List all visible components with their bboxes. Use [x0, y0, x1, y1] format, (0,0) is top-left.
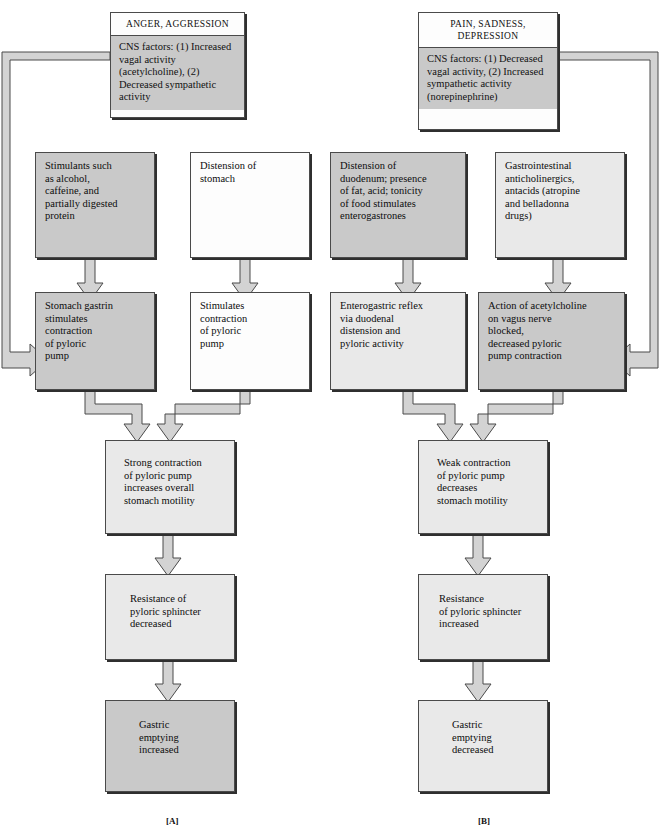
box-a-emptying-line-2: emptying [139, 732, 225, 745]
box-b-weak-line-1: Weak contraction [437, 457, 538, 470]
box-b-anticholinergics-line-4: and belladonna [505, 198, 615, 211]
box-a-stimulants: Stimulants such as alcohol, caffeine, an… [35, 152, 155, 258]
box-a-gastrin-line-1: Stomach gastrin [45, 300, 145, 313]
box-a-stimulants-line-3: caffeine, and [45, 185, 145, 198]
box-b-duodenum-line-1: Distension of [340, 160, 456, 173]
box-a-stimulants-line-5: protein [45, 210, 145, 223]
box-b-duodenum: Distension of duodenum; presence of fat,… [330, 152, 466, 258]
box-b-anticholinergics-line-2: anticholinergics, [505, 173, 615, 186]
panel-b-cns-lead: CNS factors: [427, 53, 482, 64]
box-a-strong-line-2: of pyloric pump [124, 470, 225, 483]
box-a-resistance-line-3: decreased [130, 618, 225, 631]
box-b-acetylcholine-line-2: on vagus nerve [488, 313, 615, 326]
box-b-emptying-line-2: emptying [452, 732, 538, 745]
box-b-acetylcholine-line-5: pump contraction [488, 350, 615, 363]
box-b-acetylcholine-line-1: Action of acetylcholine [488, 300, 615, 313]
box-b-gastric-emptying: Gastric emptying decreased [418, 700, 548, 792]
box-a-stimulates-line-2: contraction [200, 313, 300, 326]
box-b-duodenum-line-3: of fat, acid; tonicity [340, 185, 456, 198]
box-a-strong-line-4: stomach motility [124, 495, 225, 508]
box-b-duodenum-line-5: enterogastrones [340, 210, 456, 223]
arrow-a-resistance-to-emptying [155, 660, 181, 702]
box-b-duodenum-line-4: of food stimulates [340, 198, 456, 211]
arrow-a-strong-to-resistance [155, 534, 181, 576]
box-a-stimulates: Stimulates contraction of pyloric pump [190, 292, 310, 390]
arrow-b-resistance-to-emptying [465, 660, 491, 702]
box-a-emptying-line-3: increased [139, 744, 225, 757]
figure-canvas: .wire{fill:#d3d3d3;stroke:#4a4a4a;stroke… [0, 0, 660, 834]
box-a-gastrin-line-2: stimulates [45, 313, 145, 326]
box-b-anticholinergics-line-1: Gastrointestinal [505, 160, 615, 173]
box-a-gastric-emptying: Gastric emptying increased [105, 700, 235, 792]
box-b-anticholinergics-line-5: drugs) [505, 210, 615, 223]
arrow-a-stimulates-to-strong [157, 390, 250, 442]
box-b-duodenum-line-2: duodenum; presence [340, 173, 456, 186]
panel-b-title: PAIN, SADNESS, DEPRESSION [419, 13, 557, 48]
box-b-reflex-line-3: distension and [340, 325, 456, 338]
box-b-weak-contraction: Weak contraction of pyloric pump decreas… [418, 440, 548, 534]
panel-b-cns-factors: CNS factors: (1) Decreased vagal activit… [419, 48, 557, 109]
box-b-emptying-line-1: Gastric [452, 719, 538, 732]
box-b-weak-line-3: decreases [437, 482, 538, 495]
box-a-resistance-line-1: Resistance of [130, 593, 225, 606]
box-b-weak-line-2: of pyloric pump [437, 470, 538, 483]
box-a-distension: Distension of stomach [190, 152, 310, 258]
box-a-stimulants-line-1: Stimulants such [45, 160, 145, 173]
box-b-resistance-line-3: increased [439, 618, 538, 631]
box-b-weak-line-4: stomach motility [437, 495, 538, 508]
box-a-stimulates-line-1: Stimulates [200, 300, 300, 313]
connector-layer: .wire{fill:#d3d3d3;stroke:#4a4a4a;stroke… [0, 0, 660, 834]
box-a-distension-line-1: Distension of [200, 160, 300, 173]
box-b-acetylcholine-line-4: decreased pyloric [488, 338, 615, 351]
box-a-stimulates-line-4: pump [200, 338, 300, 351]
box-b-acetylcholine-line-3: blocked, [488, 325, 615, 338]
panel-a-cns-factors: CNS factors: (1) Increased vagal activit… [111, 36, 244, 110]
box-a-emptying-line-1: Gastric [139, 719, 225, 732]
box-a-stimulants-line-4: partially digested [45, 198, 145, 211]
box-b-reflex-line-2: via duodenal [340, 313, 456, 326]
box-b-emptying-line-3: decreased [452, 744, 538, 757]
panel-a-cns-line-4: activity [119, 91, 151, 102]
arrow-b-reflex-to-weak [403, 390, 463, 442]
panel-b-caption: [B] [478, 816, 490, 826]
box-a-gastrin-line-3: contraction [45, 325, 145, 338]
box-b-anticholinergics: Gastrointestinal anticholinergics, antac… [495, 152, 625, 258]
arrow-a-gastrin-to-strong [85, 390, 150, 442]
box-a-strong-line-1: Strong contraction [124, 457, 225, 470]
box-a-strong-contraction: Strong contraction of pyloric pump incre… [105, 440, 235, 534]
box-b-resistance-line-2: of pyloric sphincter [439, 606, 538, 619]
arrow-b-acetylcholine-to-weak [470, 390, 563, 442]
box-a-gastrin-line-4: of pyloric [45, 338, 145, 351]
panel-a-cns-lead: CNS factors: [119, 41, 174, 52]
box-a-stimulates-line-3: of pyloric [200, 325, 300, 338]
box-a-stimulants-line-2: as alcohol, [45, 173, 145, 186]
box-a-resistance: Resistance of pyloric sphincter decrease… [105, 574, 235, 660]
box-a-gastrin-line-5: pump [45, 350, 145, 363]
panel-a-header-box: ANGER, AGGRESSION CNS factors: (1) Incre… [110, 12, 245, 118]
panel-b-header-box: PAIN, SADNESS, DEPRESSION CNS factors: (… [418, 12, 558, 130]
panel-b-title-line-2: DEPRESSION [457, 31, 518, 41]
box-b-reflex-line-1: Enterogastric reflex [340, 300, 456, 313]
box-a-gastrin: Stomach gastrin stimulates contraction o… [35, 292, 155, 390]
box-a-strong-line-3: increases overall [124, 482, 225, 495]
box-b-reflex-line-4: pyloric activity [340, 338, 456, 351]
box-b-anticholinergics-line-3: antacids (atropine [505, 185, 615, 198]
panel-b-cns-line-2: activity, [452, 66, 485, 77]
panel-b-title-line-1: PAIN, SADNESS, [450, 19, 526, 29]
box-b-reflex: Enterogastric reflex via duodenal disten… [330, 292, 466, 390]
box-b-acetylcholine: Action of acetylcholine on vagus nerve b… [478, 292, 625, 390]
box-b-resistance: Resistance of pyloric sphincter increase… [418, 574, 548, 660]
panel-a-title: ANGER, AGGRESSION [111, 13, 244, 36]
box-b-resistance-line-1: Resistance [439, 593, 538, 606]
box-a-distension-line-2: stomach [200, 173, 300, 186]
arrow-b-weak-to-resistance [465, 534, 491, 576]
box-a-resistance-line-2: pyloric sphincter [130, 606, 225, 619]
panel-a-caption: [A] [166, 816, 179, 826]
